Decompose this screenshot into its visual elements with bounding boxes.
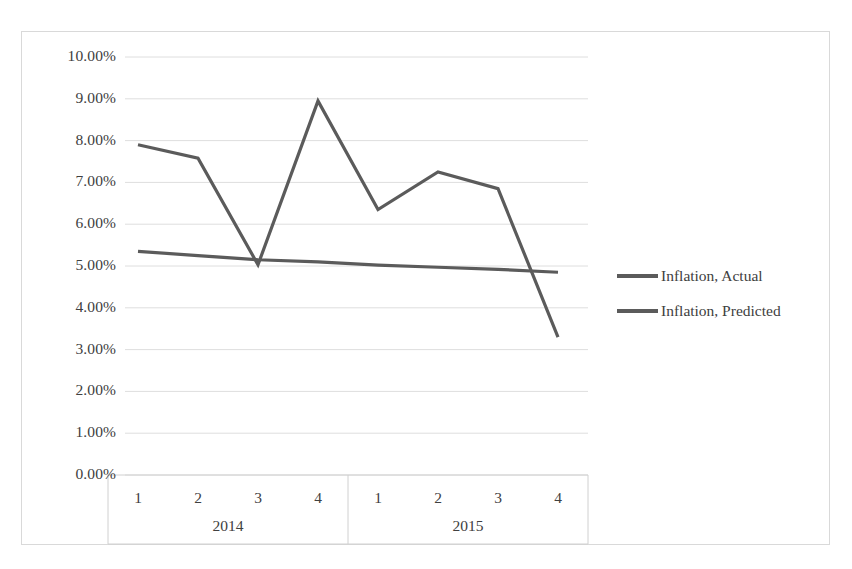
y-axis-tick-label: 0.00% — [26, 465, 116, 483]
x-axis-group-label: 2014 — [108, 517, 348, 535]
x-axis-group-label: 2015 — [348, 517, 588, 535]
x-axis-tick-label: 3 — [468, 489, 528, 507]
x-axis-tick-label: 1 — [348, 489, 408, 507]
y-axis-tick-label: 9.00% — [26, 89, 116, 107]
y-axis-tick-label: 3.00% — [26, 340, 116, 358]
x-axis-tick-label: 1 — [108, 489, 168, 507]
legend-label: Inflation, Predicted — [661, 302, 781, 320]
y-axis-tick-label: 5.00% — [26, 256, 116, 274]
x-axis-tick-label: 2 — [168, 489, 228, 507]
y-axis-tick-label: 8.00% — [26, 131, 116, 149]
y-axis-tick-label: 2.00% — [26, 381, 116, 399]
y-axis-tick-label: 4.00% — [26, 298, 116, 316]
legend-item[interactable]: Inflation, Actual — [617, 267, 763, 285]
y-axis-tick-label: 6.00% — [26, 214, 116, 232]
x-axis-tick-label: 4 — [288, 489, 348, 507]
x-axis-tick-label: 3 — [228, 489, 288, 507]
chart-frame — [21, 31, 830, 545]
legend-color-swatch — [617, 309, 658, 313]
y-axis-tick-label: 10.00% — [26, 47, 116, 65]
legend-label: Inflation, Actual — [661, 267, 763, 285]
y-axis-tick-label: 1.00% — [26, 423, 116, 441]
x-axis-tick-label: 4 — [528, 489, 588, 507]
y-axis-tick-label: 7.00% — [26, 172, 116, 190]
x-axis-tick-label: 2 — [408, 489, 468, 507]
legend-color-swatch — [617, 274, 658, 278]
legend-item[interactable]: Inflation, Predicted — [617, 302, 781, 320]
